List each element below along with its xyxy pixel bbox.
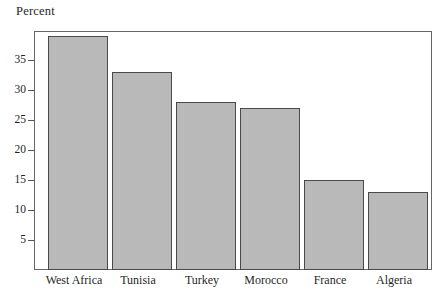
tick-mark-35	[28, 60, 35, 61]
tick-label-25: 25	[2, 114, 26, 126]
tick-mark-5	[28, 240, 35, 241]
tick-label-10: 10	[2, 204, 26, 216]
tick-mark-15	[28, 180, 35, 181]
tick-mark-20	[28, 150, 35, 151]
bar-chart: Percent 35 30 25 20 15 10 5 West Africa …	[0, 0, 448, 299]
tick-label-15: 15	[2, 174, 26, 186]
tick-mark-30	[28, 90, 35, 91]
tick-label-20: 20	[2, 144, 26, 156]
tick-mark-10	[28, 210, 35, 211]
x-label-algeria: Algeria	[348, 274, 440, 286]
tick-label-35: 35	[2, 54, 26, 66]
tick-mark-25	[28, 120, 35, 121]
tick-label-5: 5	[2, 234, 26, 246]
tick-label-30: 30	[2, 84, 26, 96]
y-axis-ticks: 35 30 25 20 15 10 5	[0, 0, 448, 299]
